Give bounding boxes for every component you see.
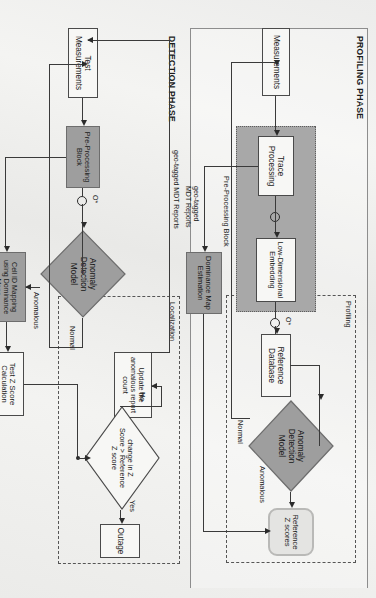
edge-no-left	[161, 386, 162, 407]
node-preprocessing-block-detection-label: Pre-Processing Block	[75, 132, 92, 183]
edge-junction-to-adm	[82, 204, 83, 274]
edge-normal-feedback-down	[232, 418, 250, 419]
edge-no-up	[120, 406, 162, 407]
edge-update-back-left	[169, 40, 170, 353]
edge-trace-to-dominance	[204, 166, 205, 246]
node-reference-z-scores[interactable]: Reference Z scores	[268, 508, 314, 556]
arrowhead-no-to-update	[151, 383, 157, 389]
junction-circle-2-label: O*	[285, 317, 292, 325]
node-low-dimensional-embedding[interactable]: Low-Dimensional Embedding	[256, 238, 296, 302]
edge-normal-label-detection: Normal	[67, 326, 76, 350]
arrowhead-to-refdb	[274, 328, 280, 334]
profiling-phase-label: PROFILING PHASE	[354, 36, 364, 119]
node-low-dimensional-embedding-label: Low-Dimensional Embedding	[268, 242, 285, 299]
edge-anomalous-label-profiling: Anomalous	[257, 466, 266, 503]
edge-normal-feedback-left	[231, 62, 232, 419]
edge-update-down-to-testmeas	[89, 40, 171, 41]
arrowhead-junction-to-adm	[81, 222, 87, 228]
detection-phase-label: DETECTION PHASE	[166, 36, 176, 122]
edge-normal-back	[49, 64, 50, 348]
edge-testz-up	[24, 384, 78, 385]
edge-geo-to-cellid	[5, 157, 6, 247]
node-cell-id-mapping-label: Cell ID Mapping using Dominance Maps	[0, 260, 18, 314]
node-z-score-decision-label: change in Z Score > Reference Z score	[110, 428, 135, 488]
edge-ppblock-to-junction	[82, 188, 83, 196]
arrowhead-into-decision	[85, 455, 91, 461]
edge-normal-label-profiling: Normal	[235, 420, 244, 444]
edge-trace-to-embedding	[275, 196, 276, 232]
node-reference-database[interactable]: Reference Database	[261, 334, 291, 397]
node-test-z-score-calculation-label: Test Z Score Calculation	[0, 363, 17, 406]
arrowhead-normal-feedback	[274, 60, 280, 66]
node-outage-label: Outage	[115, 528, 124, 555]
arrowhead-update-to-testmeas	[87, 37, 93, 43]
edge-normal-out	[82, 318, 83, 348]
edge-yes-label: Yes	[127, 500, 136, 512]
arrowhead-cellid-to-testz	[5, 346, 11, 352]
node-test-z-score-calculation[interactable]: Test Z Score Calculation	[0, 352, 24, 416]
arrowhead-adm-to-cellid	[25, 284, 31, 290]
edge-testz-to-decision	[77, 384, 78, 458]
node-reference-z-scores-label: Reference Z scores	[283, 514, 300, 549]
edge-testmeas-to-ppblock	[82, 98, 83, 120]
edge-cellid-to-testz	[6, 322, 7, 346]
arrowhead-adm-to-z-scores	[289, 502, 295, 508]
edge-geo-tagged-label-profiling: geo-tagged MDT Reports	[184, 186, 200, 228]
arrowhead-geo-to-cellid	[4, 246, 10, 252]
node-trace-processing[interactable]: Trace Processing	[258, 136, 294, 196]
edge-refdb-up	[290, 365, 320, 366]
arrowhead-testmeas-to-ppblock	[81, 120, 87, 126]
edge-dominance-right	[203, 314, 204, 532]
edge-geo-down-to-cellid	[6, 157, 66, 158]
figure-viewport: PROFILING PHASE Profiling Measurements P…	[0, 0, 376, 598]
node-z-score-decision[interactable]: change in Z Score > Reference Z score	[84, 406, 160, 510]
node-dominance-map-estimation[interactable]: Dominance Map Estimation	[186, 252, 222, 314]
node-reference-database-label: Reference Database	[267, 347, 285, 385]
node-anomaly-detection-model-profiling-label: Anomaly Detection Model	[277, 429, 305, 464]
profiling-group-label: Profiling	[343, 301, 352, 328]
edge-embedding-to-refdb	[275, 302, 276, 319]
edge-measurements-to-trace	[275, 96, 276, 130]
edge-geo-tagged-label-detection: geo-tagged MDT Reports	[172, 150, 180, 229]
node-update-report-count-label: Update the anomalous report count	[121, 357, 145, 413]
node-outage[interactable]: Outage	[100, 524, 140, 558]
junction-circle-detection-label: O*	[92, 195, 99, 203]
edge-normal-up-to-testmeas	[50, 64, 83, 65]
edge-anomalous-label-detection: Anomalous	[31, 292, 40, 329]
arrowhead-trace-to-embedding	[274, 232, 280, 238]
node-cell-id-mapping[interactable]: Cell ID Mapping using Dominance Maps	[0, 252, 26, 322]
edge-update-left-up	[150, 352, 170, 353]
node-trace-processing-label: Trace Processing	[267, 146, 285, 187]
flowchart-canvas: PROFILING PHASE Profiling Measurements P…	[0, 0, 376, 598]
node-preprocessing-block-detection[interactable]: Pre-Processing Block	[66, 126, 100, 188]
edge-normal-feedback-to-measurements	[233, 62, 277, 63]
arrowhead-refdb-to-adm	[318, 394, 324, 400]
node-dominance-map-estimation-label: Dominance Map Estimation	[196, 256, 213, 310]
arrowhead-to-dominance	[202, 246, 208, 252]
edge-dominance-up-to-zscores	[204, 531, 266, 532]
edge-refdb-to-adm	[319, 365, 320, 446]
arrowhead-decision-to-outage	[119, 518, 125, 524]
arrowhead-measurements-to-trace	[274, 130, 280, 136]
preprocessing-block-label: Pre-Processing Block	[221, 176, 230, 247]
arrowhead-normal-to-testmeas	[82, 61, 88, 67]
arrowhead-to-reference-z-scores	[265, 528, 271, 534]
edge-no-label: No	[137, 392, 146, 401]
